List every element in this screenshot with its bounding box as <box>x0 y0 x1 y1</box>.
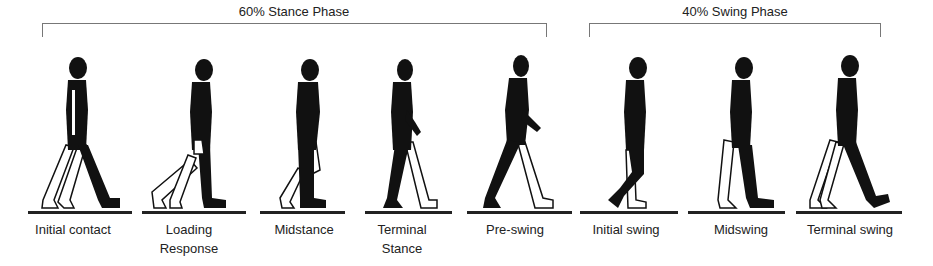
ground-line <box>28 211 132 214</box>
phase-caption-midswing: Midswing <box>714 220 768 239</box>
walking-figure-icon <box>796 50 902 215</box>
ground-line <box>142 211 246 214</box>
ground-line <box>260 211 345 214</box>
gait-figure-terminal-swing <box>796 50 902 215</box>
gait-figure-midstance <box>260 50 345 215</box>
ground-line <box>580 211 678 214</box>
gait-figure-initial-contact <box>28 50 132 215</box>
phase-caption-initial-swing: Initial swing <box>592 220 659 239</box>
gait-figure-terminal-stance <box>365 50 452 215</box>
ground-line <box>365 211 452 214</box>
stance-phase-bracket <box>42 23 547 37</box>
walking-figure-icon <box>142 50 246 215</box>
walking-figure-icon <box>365 50 452 215</box>
ground-line <box>796 211 902 214</box>
phase-caption-terminal-stance: TerminalStance <box>377 220 426 258</box>
walking-figure-icon <box>260 50 345 215</box>
walking-figure-icon <box>688 50 785 215</box>
swing-phase-label: 40% Swing Phase <box>682 4 788 19</box>
stance-phase-label: 60% Stance Phase <box>239 4 350 19</box>
phase-caption-loading-response: LoadingResponse <box>160 220 219 258</box>
gait-figure-midswing <box>688 50 785 215</box>
phase-caption-pre-swing: Pre-swing <box>486 220 544 239</box>
gait-figure-initial-swing <box>580 50 678 215</box>
phase-caption-midstance: Midstance <box>274 220 333 239</box>
walking-figure-icon <box>580 50 678 215</box>
gait-figure-pre-swing <box>467 50 572 215</box>
walking-figure-icon <box>28 50 132 215</box>
gait-figure-loading-response <box>142 50 246 215</box>
swing-phase-bracket <box>589 23 881 37</box>
phase-caption-initial-contact: Initial contact <box>35 220 111 239</box>
ground-line <box>467 211 572 214</box>
ground-line <box>688 211 785 214</box>
walking-figure-icon <box>467 50 572 215</box>
phase-caption-terminal-swing: Terminal swing <box>807 220 893 239</box>
